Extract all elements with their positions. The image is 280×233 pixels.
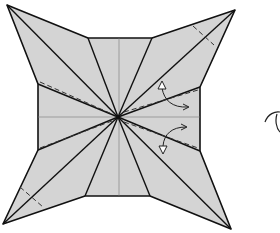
partial-next-step-curve [265,112,280,132]
origami-figure [0,0,280,233]
origami-diagram [0,0,280,233]
